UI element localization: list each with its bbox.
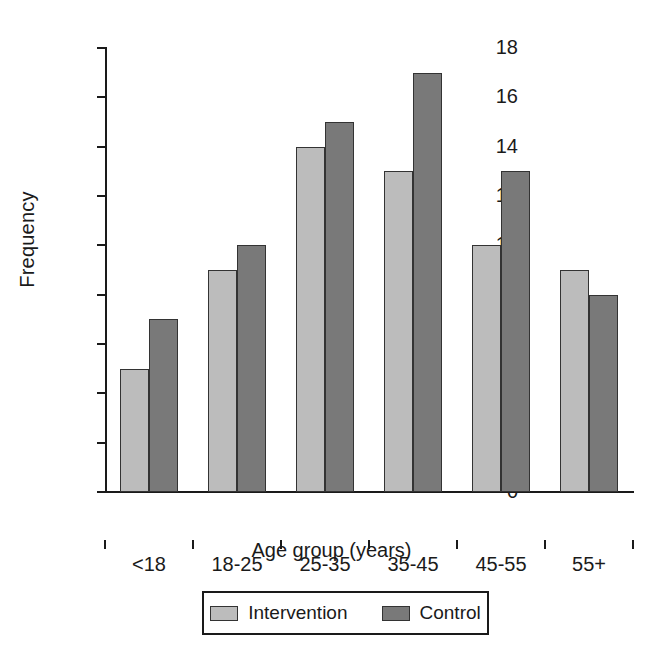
legend-item[interactable]: Control [382, 602, 481, 624]
y-axis-tick [97, 343, 105, 345]
y-axis-tick [97, 491, 105, 493]
y-axis-tick-label: 18 [478, 37, 518, 57]
chart-legend: InterventionControl [202, 591, 489, 635]
bar-chart: Frequency 024681012141618<1818-2525-3535… [0, 0, 663, 667]
y-axis-tick [97, 47, 105, 49]
y-axis-tick-label: 14 [478, 136, 518, 156]
bar [472, 245, 501, 492]
y-axis-tick [97, 294, 105, 296]
legend-swatch-icon [382, 606, 410, 621]
bar [501, 171, 530, 492]
bar [560, 270, 589, 492]
x-axis-title: Age group (years) [0, 539, 663, 562]
y-axis-tick [97, 146, 105, 148]
y-axis-tick [97, 244, 105, 246]
bar [149, 319, 178, 492]
bar [120, 369, 149, 492]
legend-item[interactable]: Intervention [210, 602, 347, 624]
bar [589, 295, 618, 492]
bar [413, 73, 442, 492]
y-axis-tick [97, 96, 105, 98]
bar [208, 270, 237, 492]
plot-area: 024681012141618<1818-2525-3535-4545-5555… [105, 48, 633, 492]
legend-swatch-icon [210, 606, 238, 621]
bar [296, 147, 325, 492]
bar [237, 245, 266, 492]
bar [325, 122, 354, 492]
bar [384, 171, 413, 492]
y-axis-tick [97, 195, 105, 197]
y-axis-tick [97, 442, 105, 444]
y-axis-tick-label: 16 [478, 86, 518, 106]
legend-label: Intervention [248, 602, 347, 624]
legend-label: Control [420, 602, 481, 624]
y-axis-tick [97, 392, 105, 394]
y-axis-title: Frequency [16, 170, 39, 310]
